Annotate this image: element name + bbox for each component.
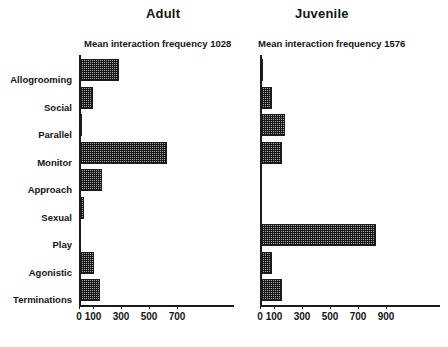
xtick-label-juvenile-700: 700 bbox=[350, 311, 367, 322]
bar-adult-allogrooming bbox=[80, 59, 119, 81]
bar-group-juvenile bbox=[261, 55, 441, 305]
xtick-label-adult-700: 700 bbox=[169, 311, 186, 322]
xtick-label-juvenile-900: 900 bbox=[378, 311, 395, 322]
category-label-agonistic: Agonistic bbox=[29, 267, 72, 278]
xtick-label-juvenile-500: 500 bbox=[322, 311, 339, 322]
category-label-allogrooming: Allogrooming bbox=[10, 74, 72, 85]
bar-group-adult bbox=[80, 55, 235, 305]
panel-title-adult: Adult bbox=[146, 6, 180, 21]
xtick-adult-100 bbox=[93, 305, 94, 309]
bar-juvenile-allogrooming bbox=[261, 59, 263, 81]
xtick-label-juvenile-100: 100 bbox=[266, 311, 283, 322]
category-label-terminations: Terminations bbox=[13, 294, 72, 305]
value-axis-line-adult bbox=[79, 305, 234, 307]
bar-adult-monitor bbox=[80, 142, 167, 164]
xtick-adult-700 bbox=[177, 305, 178, 309]
xtick-label-adult-500: 500 bbox=[141, 311, 158, 322]
category-label-play: Play bbox=[52, 239, 72, 250]
panel-subtitle-adult: Mean interaction frequency 1028 bbox=[84, 38, 231, 49]
panel-title-juvenile: Juvenile bbox=[295, 6, 349, 21]
xtick-label-adult-100: 100 bbox=[85, 311, 102, 322]
xtick-label-adult-0: 0 bbox=[76, 311, 82, 322]
plot-area-juvenile: 0100300500700900 bbox=[260, 55, 440, 313]
xtick-adult-500 bbox=[149, 305, 150, 309]
xtick-juvenile-300 bbox=[302, 305, 303, 309]
bar-adult-approach bbox=[80, 169, 102, 191]
xtick-label-juvenile-300: 300 bbox=[294, 311, 311, 322]
category-label-monitor: Monitor bbox=[37, 157, 72, 168]
bar-adult-terminations bbox=[80, 279, 100, 301]
bar-juvenile-parallel bbox=[261, 114, 285, 136]
xtick-juvenile-500 bbox=[330, 305, 331, 309]
xtick-juvenile-700 bbox=[358, 305, 359, 309]
bar-adult-sexual bbox=[80, 197, 84, 219]
bar-juvenile-social bbox=[261, 87, 272, 109]
value-axis-line-juvenile bbox=[260, 305, 440, 307]
category-label-parallel: Parallel bbox=[38, 129, 72, 140]
chart-figure: Adult Juvenile Mean interaction frequenc… bbox=[0, 0, 448, 347]
bar-adult-agonistic bbox=[80, 252, 94, 274]
xtick-juvenile-0 bbox=[260, 305, 261, 309]
bar-juvenile-monitor bbox=[261, 142, 282, 164]
panel-subtitle-juvenile: Mean interaction frequency 1576 bbox=[258, 38, 405, 49]
category-axis-labels: AllogroomingSocialParallelMonitorApproac… bbox=[0, 55, 76, 305]
xtick-juvenile-900 bbox=[386, 305, 387, 309]
bar-juvenile-agonistic bbox=[261, 252, 272, 274]
category-label-sexual: Sexual bbox=[41, 212, 72, 223]
category-label-social: Social bbox=[44, 102, 72, 113]
bar-adult-social bbox=[80, 87, 93, 109]
bar-juvenile-play bbox=[261, 224, 376, 246]
xtick-label-adult-300: 300 bbox=[113, 311, 130, 322]
xtick-adult-300 bbox=[121, 305, 122, 309]
plot-area-adult: 0100300500700 bbox=[79, 55, 234, 313]
xtick-adult-0 bbox=[79, 305, 80, 309]
xtick-label-juvenile-0: 0 bbox=[257, 311, 263, 322]
bar-juvenile-terminations bbox=[261, 279, 282, 301]
category-label-approach: Approach bbox=[28, 184, 72, 195]
bar-adult-parallel bbox=[80, 114, 82, 136]
xtick-juvenile-100 bbox=[274, 305, 275, 309]
